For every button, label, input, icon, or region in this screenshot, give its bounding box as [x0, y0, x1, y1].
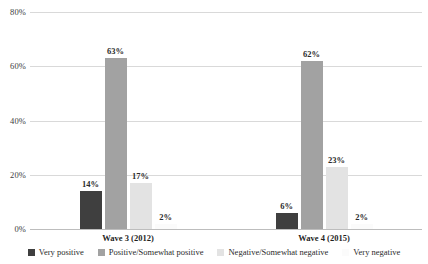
gridline-80: 80% [30, 12, 422, 13]
legend-item[interactable]: Negative/Somewhat negative [217, 247, 328, 257]
bar-value-label: 6% [280, 201, 293, 211]
y-axis-tick-label: 60% [10, 61, 26, 71]
bar-value-label: 2% [355, 212, 368, 222]
bar-value-label: 17% [132, 171, 149, 181]
y-axis-tick-label: 20% [10, 170, 26, 180]
legend-swatch-icon [98, 249, 105, 256]
legend-item[interactable]: Very negative [342, 247, 400, 257]
bar: 2% [351, 224, 373, 229]
bar-value-label: 63% [107, 46, 124, 56]
legend-item[interactable]: Positive/Somewhat positive [98, 247, 204, 257]
legend-item[interactable]: Very positive [28, 247, 84, 257]
legend-label: Positive/Somewhat positive [109, 247, 204, 257]
y-axis-tick-label: 80% [10, 7, 26, 17]
x-axis-category-label: Wave 3 (2012) [102, 233, 153, 243]
bar-value-label: 2% [159, 212, 172, 222]
y-axis-tick-label: 0% [14, 224, 26, 234]
legend-label: Very positive [39, 247, 84, 257]
bar-value-label: 62% [303, 49, 320, 59]
legend-label: Negative/Somewhat negative [228, 247, 328, 257]
legend-label: Very negative [353, 247, 400, 257]
gridline-40: 40% [30, 121, 422, 122]
x-axis-category-label: Wave 4 (2015) [298, 233, 349, 243]
bar: 17% [130, 183, 152, 229]
gridline-0: 0% [30, 229, 422, 230]
bar: 23% [326, 167, 348, 229]
bar: 14% [80, 191, 102, 229]
bar: 2% [155, 224, 177, 229]
bar: 63% [105, 58, 127, 229]
bar: 62% [301, 61, 323, 229]
chart-legend: Very positivePositive/Somewhat positiveN… [0, 247, 428, 257]
bar: 6% [276, 213, 298, 229]
legend-swatch-icon [28, 249, 35, 256]
gridline-20: 20% [30, 175, 422, 176]
legend-swatch-icon [342, 249, 349, 256]
y-axis-tick-label: 40% [10, 116, 26, 126]
legend-swatch-icon [217, 249, 224, 256]
plot-area: 0%20%40%60%80% 14%63%17%2%6%62%23%2% Wav… [30, 12, 422, 229]
bar-chart: 0%20%40%60%80% 14%63%17%2%6%62%23%2% Wav… [0, 0, 428, 264]
bar-value-label: 23% [328, 155, 345, 165]
gridline-60: 60% [30, 66, 422, 67]
bar-value-label: 14% [82, 179, 99, 189]
